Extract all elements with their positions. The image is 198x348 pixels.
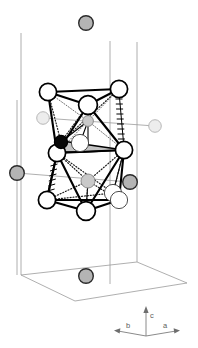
atom-black-center bbox=[54, 135, 67, 148]
atom-white-lower-left bbox=[38, 191, 55, 208]
atom-white-apex-bottom bbox=[77, 202, 96, 221]
axis-arrow-c bbox=[143, 306, 148, 313]
atom-white-apex-top bbox=[79, 96, 98, 115]
crystallographic-axes: b c a bbox=[114, 306, 180, 336]
atom-gray-top bbox=[79, 16, 94, 31]
atom-gray-bottom bbox=[79, 269, 94, 284]
atom-gray-right-edge bbox=[123, 175, 138, 190]
axis-line-b bbox=[118, 331, 146, 336]
axis-line-a bbox=[146, 331, 176, 336]
structure-canvas: b c a bbox=[0, 0, 198, 348]
atom-group bbox=[10, 16, 162, 284]
cell-guide-horizontal-lower bbox=[17, 173, 130, 182]
atom-white-lower-right bbox=[110, 191, 127, 208]
axis-label-a: a bbox=[163, 321, 168, 330]
axis-label-b: b bbox=[126, 321, 130, 330]
cell-base-parallelogram bbox=[21, 262, 187, 301]
axis-arrow-b bbox=[114, 328, 120, 333]
atom-white-upper-left bbox=[39, 83, 56, 100]
axis-label-c: c bbox=[150, 311, 154, 320]
bond-hatched-spine bbox=[119, 92, 124, 148]
atom-pale-right bbox=[149, 120, 162, 133]
atom-gray-interior-lower bbox=[81, 174, 95, 188]
atom-pale-left-upper bbox=[37, 112, 50, 125]
axis-arrow-a bbox=[174, 328, 180, 333]
crystal-structure-figure: b c a bbox=[0, 0, 198, 348]
atom-gray-interior-upper bbox=[83, 116, 94, 127]
atom-gray-left-edge bbox=[10, 166, 25, 181]
unit-cell-box bbox=[17, 33, 187, 301]
atom-white-mid-right bbox=[115, 141, 132, 158]
atom-white-upper-right bbox=[110, 80, 127, 97]
atom-white-interior-mid bbox=[71, 134, 88, 151]
bond-solid-3 bbox=[48, 89, 119, 92]
